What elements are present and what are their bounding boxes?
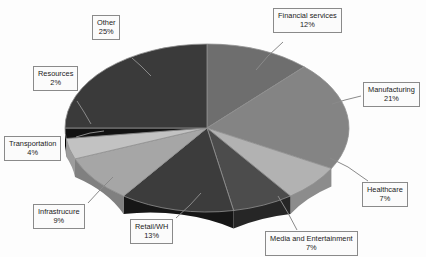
callout-label: Infrastrucure: [38, 207, 80, 216]
callout-percent: 2%: [38, 78, 73, 87]
callout-label: Media and Entertainment: [270, 234, 353, 243]
callout-label: Retail/WH: [135, 222, 168, 231]
pie-chart-figure: Financial services 12% Manufacturing 21%…: [0, 0, 426, 257]
callout-percent: 21%: [368, 94, 415, 103]
callout-label: Transportation: [9, 139, 56, 148]
callout-percent: 9%: [38, 216, 80, 225]
callout-percent: 7%: [270, 243, 353, 252]
callout-label: Financial services: [278, 11, 337, 20]
callout-percent: 13%: [135, 231, 168, 240]
callout-other[interactable]: Other 25%: [92, 15, 120, 40]
callout-resources[interactable]: Resources 2%: [33, 66, 78, 91]
callout-percent: 4%: [9, 148, 56, 157]
callout-percent: 7%: [367, 194, 403, 203]
callout-healthcare[interactable]: Healthcare 7%: [362, 182, 408, 207]
callout-manufacturing[interactable]: Manufacturing 21%: [363, 82, 420, 107]
callout-label: Healthcare: [367, 185, 403, 194]
callout-label: Resources: [38, 69, 73, 78]
callout-label: Manufacturing: [368, 85, 415, 94]
callout-infrastructure[interactable]: Infrastrucure 9%: [33, 204, 85, 229]
callout-percent: 12%: [278, 20, 337, 29]
callout-retail-wh[interactable]: Retail/WH 13%: [130, 219, 173, 244]
pie-slices: [65, 44, 349, 212]
callout-transportation[interactable]: Transportation 4%: [4, 136, 61, 161]
callout-label: Other: [97, 18, 115, 27]
callout-media-entertainment[interactable]: Media and Entertainment 7%: [265, 231, 358, 256]
callout-financial-services[interactable]: Financial services 12%: [273, 8, 342, 33]
callout-percent: 25%: [97, 27, 115, 36]
